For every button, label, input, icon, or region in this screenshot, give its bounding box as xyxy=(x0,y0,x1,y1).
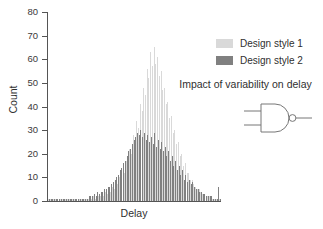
y-tick-mark xyxy=(42,107,47,108)
x-axis-line xyxy=(47,201,221,202)
y-tick-label: 30 xyxy=(16,125,38,135)
chart-figure: 01020304050607080 Count Delay Design sty… xyxy=(0,0,323,229)
y-tick-label: 10 xyxy=(16,172,38,182)
legend-item-design-style-1[interactable]: Design style 1 xyxy=(216,36,323,51)
legend-swatch-icon-series1 xyxy=(216,39,233,48)
legend-item-design-style-2[interactable]: Design style 2 xyxy=(216,53,323,68)
y-tick-label: 20 xyxy=(16,149,38,159)
y-tick-label: 70 xyxy=(16,31,38,41)
y-tick-mark xyxy=(42,130,47,131)
y-tick-mark xyxy=(42,154,47,155)
plot-area xyxy=(48,12,221,201)
nand-gate-icon xyxy=(244,100,312,136)
y-tick-label: 40 xyxy=(16,102,38,112)
y-tick-mark xyxy=(42,36,47,37)
y-tick-label: 0 xyxy=(16,196,38,206)
histogram-bar xyxy=(220,199,221,201)
y-tick-mark xyxy=(42,59,47,60)
y-tick-label: 60 xyxy=(16,54,38,64)
y-tick-mark xyxy=(42,12,47,13)
y-tick-mark xyxy=(42,177,47,178)
chart-title: Impact of variability on delay xyxy=(168,78,323,90)
legend-label-series2: Design style 2 xyxy=(240,55,303,66)
y-tick-mark xyxy=(42,83,47,84)
x-axis-title: Delay xyxy=(47,208,221,219)
y-tick-label: 80 xyxy=(16,7,38,17)
legend-swatch-icon-series2 xyxy=(216,56,233,65)
y-axis-title: Count xyxy=(8,68,19,132)
y-tick-label: 50 xyxy=(16,78,38,88)
chart-legend: Design style 1 Design style 2 xyxy=(216,36,323,70)
legend-label-series1: Design style 1 xyxy=(240,38,303,49)
